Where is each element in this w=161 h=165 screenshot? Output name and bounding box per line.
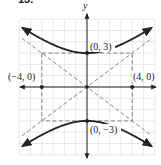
left-point-label: (−4, 0) (8, 71, 35, 83)
vertex-bottom-point (85, 119, 89, 123)
hyperbola-graph: y (0, 3) (0, −3) (−4, 0) (4, 0) (0, 0, 161, 165)
right-point (130, 85, 134, 89)
top-vertex-label: (0, 3) (90, 41, 112, 53)
left-point (40, 85, 44, 89)
bottom-vertex-label: (0, −3) (90, 124, 117, 136)
right-point-label: (4, 0) (133, 71, 155, 83)
y-axis-label: y (82, 0, 88, 11)
vertex-top-point (85, 51, 89, 55)
origin-point (85, 85, 89, 89)
